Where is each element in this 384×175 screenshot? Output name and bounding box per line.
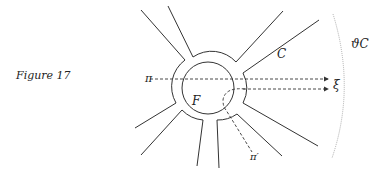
label-xi: ξ [333,78,341,92]
label-boundary-C: ϑC [351,37,369,51]
outer-arc-bottom-right [217,114,237,120]
central-region [172,51,247,120]
outer-arc-top [193,51,236,62]
path-pi-prime [223,89,252,152]
channels [135,6,319,168]
label-F: F [191,94,201,108]
label-pi-prime: π′ [249,151,260,162]
label-pi: π [144,72,153,85]
inner-circle-F [182,62,234,114]
diagram: π π′ ξ F C ϑC [0,0,384,175]
outer-arc-bottom [182,110,203,120]
label-C: C [277,47,286,61]
outer-arc-right [243,73,247,103]
